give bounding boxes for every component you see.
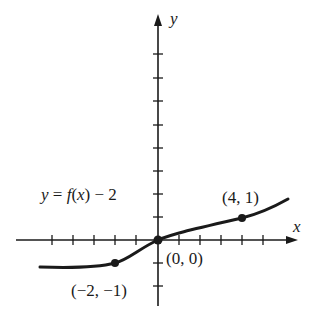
- x-axis-label: x: [292, 217, 301, 236]
- y-axis-arrow-icon: [154, 14, 162, 26]
- point-4-1: [238, 214, 246, 222]
- point-label-neg2-neg1: (−2, −1): [71, 281, 127, 300]
- point-label-4-1: (4, 1): [222, 188, 259, 207]
- point-label-origin: (0, 0): [166, 249, 203, 268]
- x-axis-arrow-icon: [286, 236, 298, 244]
- y-axis-label: y: [168, 9, 178, 28]
- point-origin: [154, 236, 163, 245]
- curve-label: y = f(x) − 2: [39, 185, 117, 204]
- graph: y x y = f(x) − 2 (4, 1) (0, 0) (−2, −1): [0, 0, 320, 317]
- curve-f-minus-2: [40, 199, 288, 267]
- point-neg2-neg1: [111, 259, 119, 267]
